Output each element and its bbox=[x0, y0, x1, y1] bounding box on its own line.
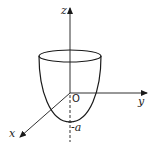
vertex-label: -a bbox=[71, 121, 81, 134]
x-axis bbox=[20, 93, 70, 137]
y-axis-label: y bbox=[137, 95, 145, 108]
z-axis-label: z bbox=[60, 4, 67, 17]
x-axis-label: x bbox=[9, 127, 16, 140]
paraboloid-diagram: z y x O -a bbox=[0, 0, 153, 148]
origin-label: O bbox=[72, 93, 80, 104]
